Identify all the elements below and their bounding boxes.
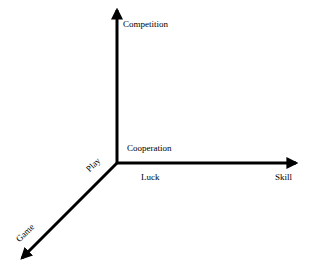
luck-label: Luck <box>141 173 160 182</box>
axes-diagram: Competition Cooperation Luck Skill Play … <box>0 0 310 274</box>
competition-label: Competition <box>123 20 168 29</box>
axes-svg <box>0 0 310 274</box>
game-axis <box>22 162 118 258</box>
skill-label: Skill <box>275 173 292 182</box>
cooperation-label: Cooperation <box>127 144 172 153</box>
